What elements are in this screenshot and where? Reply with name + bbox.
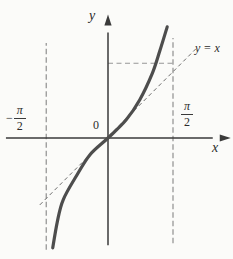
fraction-pi-over-2: π 2: [181, 100, 193, 129]
fraction-denominator-two: 2: [181, 114, 193, 129]
fraction-numerator-pi: π: [182, 100, 192, 114]
x-axis-label: x: [212, 141, 218, 155]
y-axis-arrow-icon: [104, 15, 111, 26]
origin-label: 0: [93, 119, 99, 131]
x-axis-arrow-icon: [220, 134, 231, 141]
tangent-graph-figure: y x 0 y = x − π 2 π 2: [0, 0, 233, 259]
fraction-denominator-two: 2: [14, 118, 26, 133]
identity-line-label: y = x: [195, 42, 220, 54]
x-tick-neg-pi-over-2: − π 2: [6, 104, 26, 133]
minus-sign: −: [6, 112, 13, 124]
y-axis-label: y: [89, 9, 95, 23]
fraction-numerator-pi: π: [15, 104, 25, 118]
fraction-pi-over-2: π 2: [14, 104, 26, 133]
graph-canvas: [0, 0, 233, 259]
x-tick-pi-over-2: π 2: [181, 100, 193, 129]
